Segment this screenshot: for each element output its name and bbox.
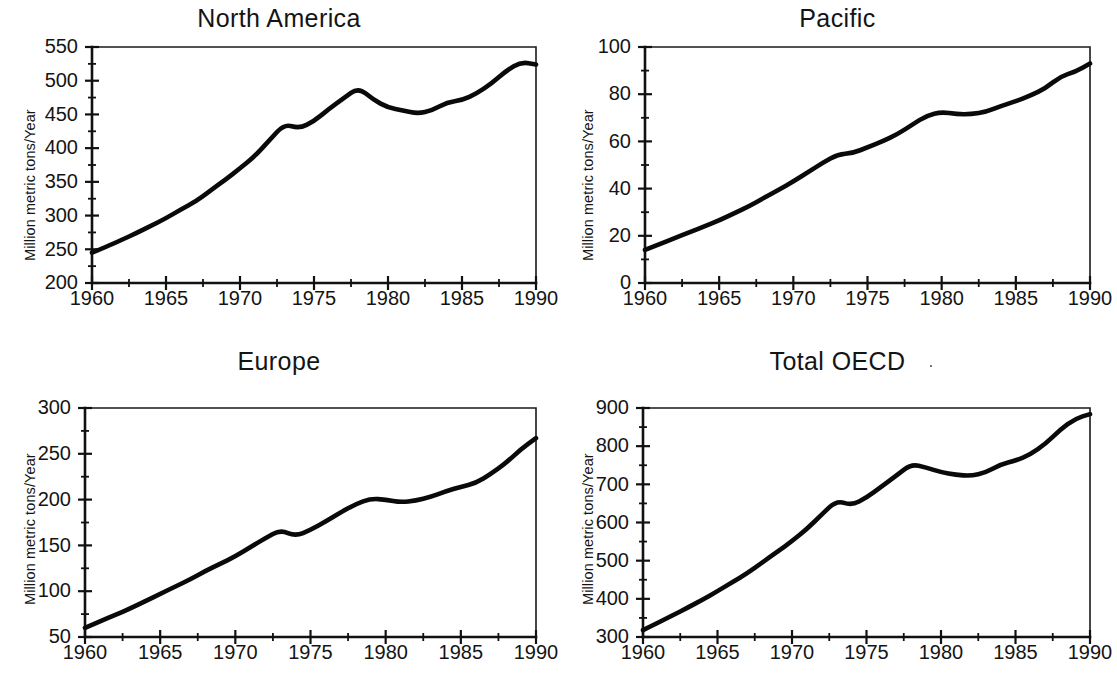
data-line-pacific (645, 64, 1090, 250)
x-tick-label: 1980 (366, 287, 411, 309)
y-tick-label: 300 (45, 204, 78, 226)
y-tick-label: 900 (596, 396, 629, 418)
y-tick-label: 250 (38, 442, 71, 464)
plot-pacific: 1008060402001960196519701975198019851990 (558, 0, 1117, 341)
y-tick-label: 800 (596, 434, 629, 456)
x-tick-label: 1990 (1068, 641, 1113, 663)
x-tick-label: 1985 (439, 641, 484, 663)
x-tick-label: 1960 (621, 641, 666, 663)
x-tick-label: 1990 (1068, 287, 1113, 309)
x-tick-label: 1970 (218, 287, 263, 309)
y-tick-label: 40 (609, 177, 631, 199)
data-line-europe (85, 438, 536, 628)
y-tick-label: 500 (596, 549, 629, 571)
data-line-north-america (92, 63, 536, 253)
y-tick-label: 500 (45, 69, 78, 91)
x-tick-label: 1980 (919, 641, 964, 663)
y-tick-label: 300 (38, 396, 71, 418)
y-tick-label: 350 (45, 170, 78, 192)
y-tick-label: 400 (596, 587, 629, 609)
x-tick-label: 1965 (695, 641, 740, 663)
x-tick-label: 1960 (70, 287, 115, 309)
x-tick-label: 1990 (514, 641, 559, 663)
panel-north-america: North America Million metric tons/Year 5… (0, 0, 558, 341)
x-tick-label: 1985 (440, 287, 485, 309)
y-tick-label: 20 (609, 224, 631, 246)
x-tick-label: 1965 (138, 641, 183, 663)
y-tick-label: 550 (45, 35, 78, 57)
scan-speck (930, 365, 932, 367)
plot-total-oecd: 9008007006005004003001960196519701975198… (558, 341, 1117, 685)
x-tick-label: 1985 (994, 287, 1039, 309)
x-tick-label: 1985 (993, 641, 1038, 663)
panel-total-oecd: Total OECD Million metric tons/Year 9008… (558, 341, 1117, 685)
x-tick-label: 1970 (213, 641, 258, 663)
x-tick-label: 1960 (623, 287, 668, 309)
x-tick-label: 1990 (514, 287, 559, 309)
panel-europe: Europe Million metric tons/Year 30025020… (0, 341, 558, 685)
x-tick-label: 1970 (771, 287, 816, 309)
plot-europe: 3002502001501005019601965197019751980198… (0, 341, 558, 685)
chart-grid: North America Million metric tons/Year 5… (0, 0, 1117, 685)
x-tick-label: 1980 (363, 641, 408, 663)
x-tick-label: 1975 (288, 641, 333, 663)
panel-pacific: Pacific Million metric tons/Year 1008060… (558, 0, 1117, 341)
x-tick-label: 1975 (844, 641, 889, 663)
x-tick-label: 1975 (845, 287, 890, 309)
x-tick-label: 1965 (697, 287, 742, 309)
y-tick-label: 80 (609, 82, 631, 104)
x-tick-label: 1980 (919, 287, 964, 309)
y-tick-label: 450 (45, 103, 78, 125)
data-line-total-oecd (643, 414, 1090, 630)
x-tick-label: 1965 (144, 287, 189, 309)
y-tick-label: 200 (38, 488, 71, 510)
y-tick-label: 600 (596, 511, 629, 533)
y-tick-label: 60 (609, 130, 631, 152)
y-tick-label: 400 (45, 136, 78, 158)
y-tick-label: 100 (38, 579, 71, 601)
y-tick-label: 100 (598, 35, 631, 57)
y-tick-label: 150 (38, 534, 71, 556)
x-tick-label: 1960 (63, 641, 108, 663)
y-tick-label: 250 (45, 238, 78, 260)
y-tick-label: 700 (596, 473, 629, 495)
plot-north-america: 5505004504003503002502001960196519701975… (0, 0, 558, 341)
x-tick-label: 1975 (292, 287, 337, 309)
x-tick-label: 1970 (770, 641, 815, 663)
